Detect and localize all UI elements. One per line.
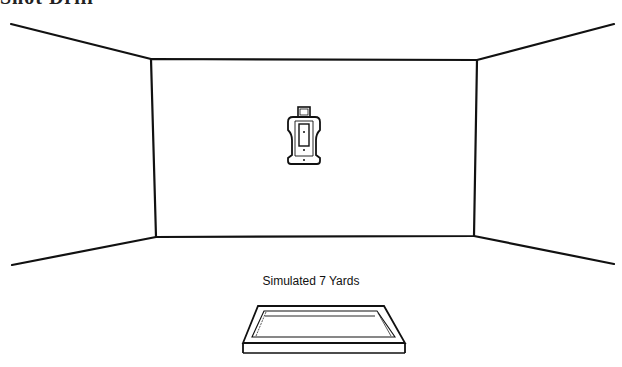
floor-left-edge — [12, 237, 156, 265]
floor-right-edge — [474, 236, 614, 264]
shooting-bench — [243, 306, 405, 353]
silhouette-target[interactable] — [288, 107, 320, 164]
ceiling-right-edge — [477, 24, 614, 60]
ceiling-left-edge — [11, 24, 151, 59]
shooting-range-scene — [0, 0, 622, 367]
distance-label: Simulated 7 Yards — [0, 274, 622, 288]
